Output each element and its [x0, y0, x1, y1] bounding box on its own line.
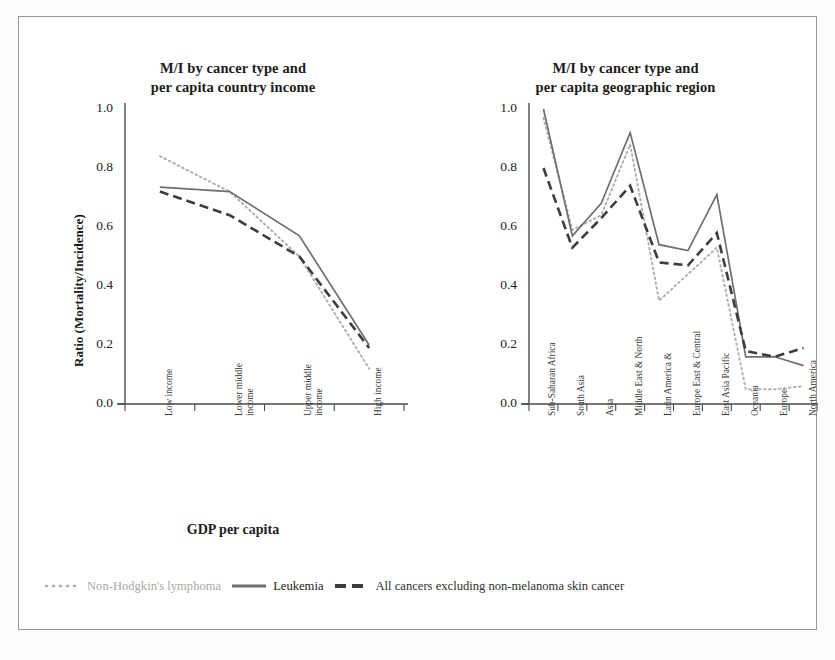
x-axis-tick-label: High income: [373, 367, 384, 416]
y-axis-tick-label: 1.0: [79, 100, 113, 116]
chart-panel-right: M/I by cancer type and per capita geogra…: [433, 17, 818, 577]
x-axis-tick-label: Low income: [164, 369, 175, 416]
series-line: [160, 192, 369, 348]
y-axis-tick-label: 0.2: [483, 336, 517, 352]
chart-legend: Non-Hodgkin's lymphomaLeukemiaAll cancer…: [45, 573, 805, 599]
series-line: [543, 118, 803, 389]
series-line: [160, 187, 369, 345]
x-axis-tick-label: Lower middleincome: [234, 363, 256, 416]
x-axis-tick-label: Asia: [605, 399, 616, 416]
legend-item: Leukemia: [231, 579, 323, 594]
x-axis-tick-label: South Asia: [576, 375, 587, 416]
y-axis-tick-label: 0.6: [79, 218, 113, 234]
legend-label: Leukemia: [273, 579, 323, 594]
chart-panel-left: M/I by cancer type and per capita countr…: [33, 17, 433, 577]
legend-key-solid-icon: [231, 580, 267, 592]
x-axis-tick-label: East Asia Pacific: [721, 352, 732, 416]
x-axis-tick-label: Middle East & North: [634, 337, 645, 416]
y-axis-tick-label: 0.0: [79, 395, 113, 411]
legend-key-dashed-icon: [334, 580, 370, 592]
legend-key-dotted-icon: [45, 580, 81, 592]
y-axis-tick-label: 1.0: [483, 100, 517, 116]
y-axis-tick-label: 0.8: [483, 159, 517, 175]
y-axis-tick-label: 0.8: [79, 159, 113, 175]
legend-item: All cancers excluding non-melanoma skin …: [334, 579, 625, 594]
x-axis-title-left: GDP per capita: [33, 522, 433, 538]
x-axis-tick-label: Europe East & Central: [692, 331, 703, 416]
legend-label: All cancers excluding non-melanoma skin …: [376, 579, 625, 594]
x-axis-tick-label: North America: [808, 360, 819, 416]
x-axis-tick-label: Oceania: [750, 385, 761, 416]
x-axis-tick-label: Latin America &: [663, 352, 674, 416]
figure-frame: M/I by cancer type and per capita countr…: [18, 16, 817, 630]
y-axis-tick-label: 0.0: [483, 395, 517, 411]
y-axis-tick-label: 0.6: [483, 218, 517, 234]
legend-item: Non-Hodgkin's lymphoma: [45, 579, 221, 594]
legend-label: Non-Hodgkin's lymphoma: [87, 579, 221, 594]
y-axis-tick-label: 0.4: [483, 277, 517, 293]
series-line: [160, 156, 369, 368]
x-axis-tick-label: Europe: [779, 389, 790, 416]
series-line: [543, 168, 803, 357]
x-axis-tick-label: Sub-Saharan Africa: [547, 342, 558, 416]
x-axis-tick-label: Upper middleincome: [303, 364, 325, 416]
figure-page: M/I by cancer type and per capita countr…: [0, 0, 835, 660]
y-axis-tick-label: 0.2: [79, 336, 113, 352]
y-axis-tick-label: 0.4: [79, 277, 113, 293]
